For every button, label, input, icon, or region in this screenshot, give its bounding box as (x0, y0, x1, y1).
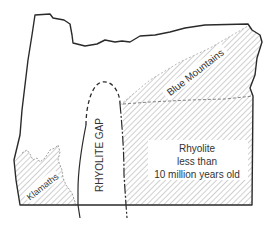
oregon-rhyolite-map: Blue Mountains Rhyolite less than 10 mil… (0, 0, 274, 228)
region-blue-mountains (120, 26, 262, 105)
label-rhyolite-gap: RHYOLITE GAP (94, 118, 105, 192)
label-rhyolite-line2: less than (177, 156, 217, 167)
label-rhyolite-line3: 10 million years old (154, 169, 240, 180)
rhyolite-gap-left-edge (78, 125, 86, 218)
region-klamaths (15, 145, 76, 205)
label-rhyolite-line1: Rhyolite (179, 143, 216, 154)
